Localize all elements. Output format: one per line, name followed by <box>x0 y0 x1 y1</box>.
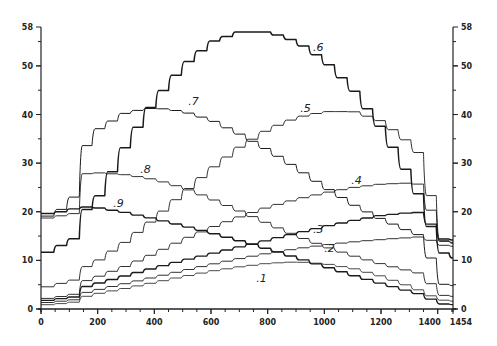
curves <box>41 32 453 305</box>
x-tick-label: 600 <box>203 318 220 327</box>
x-tick-label: 1000 <box>313 318 336 327</box>
curve-5 <box>41 112 453 287</box>
y-tick-label-left: 0 <box>27 305 33 314</box>
curve-2 <box>41 237 453 303</box>
curve-label: .7 <box>188 95 199 108</box>
y-tick-label-left: 58 <box>22 23 34 32</box>
y-tick-label-right: 58 <box>461 23 473 32</box>
y-tick-label-right: 30 <box>461 159 473 168</box>
x-tick-label: 800 <box>259 318 276 327</box>
x-tick-label: 200 <box>89 318 106 327</box>
y-tick-label-right: 20 <box>461 208 473 217</box>
y-tick-label-right: 50 <box>461 62 473 71</box>
y-tick-label-left: 50 <box>22 62 34 71</box>
y-tick-label-right: 40 <box>461 111 473 120</box>
chart-canvas: 0010102020303040405050585802004006008001… <box>0 0 497 346</box>
curve-labels: .1.2.3.4.5.6.7.8.9 <box>113 41 362 285</box>
curve-8 <box>41 173 453 297</box>
curve-label: .9 <box>113 197 124 210</box>
curve-label: .5 <box>300 102 311 115</box>
step-curves-chart: 0010102020303040405050585802004006008001… <box>0 0 497 346</box>
curve-label: .2 <box>324 242 335 255</box>
x-tick-label: 1400 <box>419 318 442 327</box>
curve-label: .8 <box>140 163 151 176</box>
curve-label: .4 <box>351 174 362 187</box>
x-tick-label: 400 <box>146 318 163 327</box>
y-tick-label-left: 10 <box>22 256 34 265</box>
curve-9 <box>41 207 453 305</box>
curve-label: .6 <box>313 41 324 54</box>
axes: 0010102020303040405050585802004006008001… <box>22 23 473 327</box>
curve-7 <box>41 109 453 286</box>
y-tick-label-left: 20 <box>22 208 34 217</box>
x-tick-label: 1454 <box>450 318 473 327</box>
y-tick-label-left: 30 <box>22 159 34 168</box>
curve-4 <box>41 183 453 298</box>
x-tick-label: 0 <box>38 318 44 327</box>
y-tick-label-left: 40 <box>22 111 34 120</box>
curve-label: .1 <box>256 272 267 285</box>
y-tick-label-right: 10 <box>461 256 473 265</box>
x-tick-label: 1200 <box>370 318 393 327</box>
curve-label: .3 <box>313 223 324 236</box>
y-tick-label-right: 0 <box>461 305 467 314</box>
